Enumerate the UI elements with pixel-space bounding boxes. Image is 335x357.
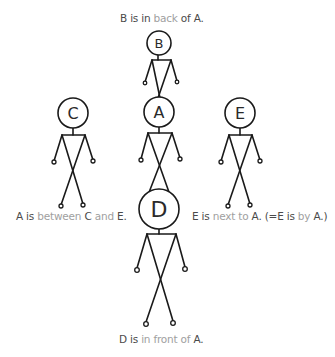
label-e: E — [235, 104, 245, 123]
caption-left: A is between C and E. — [16, 210, 127, 222]
caption-right-highlight-1: next to — [213, 210, 249, 222]
caption-right-text-1: E is — [192, 210, 213, 222]
caption-right-highlight-2: by — [298, 210, 310, 222]
caption-right-text-2: A. (=E is — [248, 210, 297, 222]
caption-bottom: D is in front of A. — [119, 333, 203, 345]
caption-bottom-text-1: D is — [119, 333, 141, 345]
caption-right-text-3: A.) — [310, 210, 327, 222]
label-b: B — [155, 36, 164, 51]
stick-figure-d: D — [135, 189, 188, 326]
caption-right: E is next to A. (=E is by A.) — [192, 210, 327, 222]
stick-figures: B C — [0, 0, 335, 357]
caption-bottom-text-2: A. — [190, 333, 203, 345]
caption-left-highlight-1: between — [37, 210, 81, 222]
label-d: D — [151, 197, 168, 222]
stick-figure-a: A — [139, 97, 182, 195]
stick-figure-c: C — [52, 98, 95, 208]
preposition-diagram: B C — [0, 0, 335, 357]
caption-left-highlight-2: and — [95, 210, 114, 222]
label-a: A — [154, 103, 165, 122]
label-c: C — [67, 104, 78, 123]
caption-top: B is in back of A. — [120, 12, 204, 24]
caption-top-text-2: of A. — [178, 12, 204, 24]
caption-top-text-1: B is in — [120, 12, 154, 24]
caption-left-text-1: A is — [16, 210, 37, 222]
caption-top-highlight: back — [154, 12, 178, 24]
caption-left-text-3: E. — [114, 210, 127, 222]
caption-left-text-2: C — [81, 210, 94, 222]
stick-figure-b: B — [143, 31, 179, 98]
stick-figure-e: E — [219, 98, 262, 208]
caption-bottom-highlight: in front of — [141, 333, 190, 345]
